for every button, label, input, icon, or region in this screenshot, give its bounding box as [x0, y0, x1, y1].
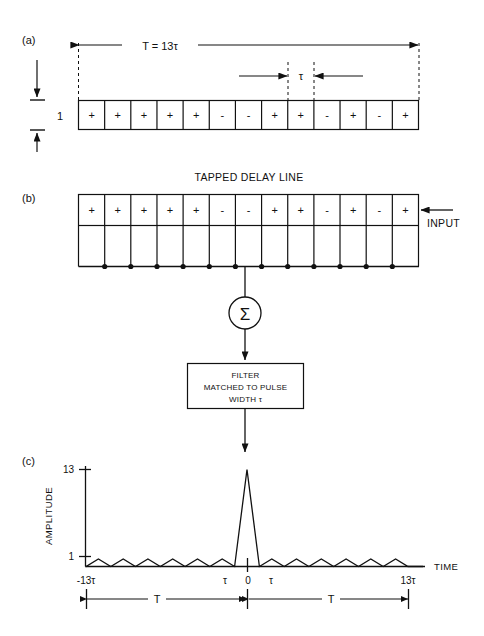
- code-b-cell-sign: +: [402, 204, 408, 216]
- code-b-cell-sign: +: [141, 204, 147, 216]
- tau-label: τ: [299, 70, 304, 82]
- code-b-cell-sign: -: [377, 204, 381, 216]
- code-b-cell-sign: +: [193, 204, 199, 216]
- code-cells-b: +++++--++-+-+: [79, 195, 419, 226]
- summation-symbol: Σ: [240, 305, 251, 324]
- tap-junction-dot: [207, 264, 212, 269]
- code-a-cell-sign: +: [271, 109, 277, 121]
- x-tick-label-tau-right: τ: [269, 575, 273, 586]
- filter-box-line-1: FILTER: [231, 371, 259, 380]
- y-axis-label: AMPLITUDE: [43, 487, 54, 545]
- tap-junction-dot: [128, 264, 133, 269]
- code-a-cell-sign: +: [167, 109, 173, 121]
- code-a-cell-sign: +: [402, 109, 408, 121]
- tap-junction-dot: [233, 264, 238, 269]
- panel-a-group: T = 13τ τ 1 +++++--++-+-+: [30, 36, 419, 152]
- code-b-cell-sign: -: [247, 204, 251, 216]
- code-cells-a: +++++--++-+-+: [79, 101, 419, 130]
- autocorrelation-trace: [86, 470, 424, 567]
- panel-label-a: (a): [22, 34, 35, 46]
- x-tick-label-minus13tau: -13τ: [77, 575, 95, 586]
- code-b-cell-sign: -: [325, 204, 329, 216]
- code-a-cell-sign: -: [325, 109, 329, 121]
- duration-label: T = 13τ: [142, 40, 178, 52]
- panel-label-c: (c): [22, 455, 35, 467]
- filter-box-line-3: WIDTH τ: [229, 395, 263, 404]
- y-tick-label-1: 1: [68, 551, 74, 562]
- tap-junction-dot: [181, 264, 186, 269]
- tap-junction-dot: [259, 264, 264, 269]
- panel-c-group: 13 1 AMPLITUDE TIME -13τ τ 0 τ 13τ T T: [43, 464, 458, 609]
- code-a-cell-sign: -: [377, 109, 381, 121]
- barker-code-figure: (a) (b) (c) T = 13τ τ: [0, 0, 484, 636]
- x-tick-label-tau-left: τ: [223, 575, 227, 586]
- figure-canvas: T = 13τ τ 1 +++++--++-+-+ TAPPED DELAY L…: [0, 0, 484, 636]
- tap-junction-dot: [364, 264, 369, 269]
- filter-box-line-2: MATCHED TO PULSE: [204, 383, 288, 392]
- code-b-cell-sign: +: [88, 204, 94, 216]
- tap-junction-dot: [285, 264, 290, 269]
- code-a-cell-sign: +: [114, 109, 120, 121]
- x-axis-label: TIME: [434, 561, 458, 572]
- code-a-cell-sign: +: [298, 109, 304, 121]
- tap-junction-dot: [337, 264, 342, 269]
- code-a-cell-sign: +: [141, 109, 147, 121]
- x-tick-label-13tau: 13τ: [400, 575, 415, 586]
- code-b-cell-sign: +: [167, 204, 173, 216]
- panel-label-b: (b): [22, 192, 35, 204]
- y-tick-label-13: 13: [63, 464, 75, 475]
- code-a-cell-sign: +: [193, 109, 199, 121]
- code-a-cell-sign: -: [220, 109, 224, 121]
- code-b-cell-sign: +: [350, 204, 356, 216]
- span-label-left: T: [154, 593, 161, 605]
- code-b-cell-sign: +: [298, 204, 304, 216]
- code-a-cell-sign: +: [88, 109, 94, 121]
- tap-junction-dot: [311, 264, 316, 269]
- x-tick-label-zero: 0: [245, 575, 251, 586]
- panel-b-group: TAPPED DELAY LINE +++++--++-+-+ INPUT Σ …: [79, 171, 461, 452]
- input-label: INPUT: [427, 217, 460, 229]
- code-b-cell-sign: +: [271, 204, 277, 216]
- tap-junction-dot: [390, 264, 395, 269]
- tapped-delay-line-title: TAPPED DELAY LINE: [195, 171, 304, 183]
- tap-junction-dot: [102, 264, 107, 269]
- code-a-cell-sign: -: [247, 109, 251, 121]
- span-label-right: T: [328, 593, 335, 605]
- code-b-cell-sign: +: [114, 204, 120, 216]
- tap-lines-group: [79, 226, 419, 267]
- amplitude-value-label: 1: [57, 110, 63, 122]
- tap-junction-dot: [154, 264, 159, 269]
- code-b-cell-sign: -: [220, 204, 224, 216]
- code-a-cell-sign: +: [350, 109, 356, 121]
